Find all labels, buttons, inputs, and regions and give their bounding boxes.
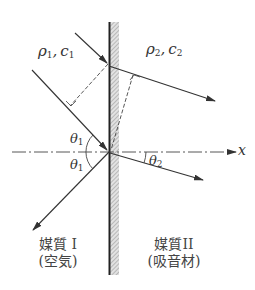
theta2-refracted-label: θ2 xyxy=(149,153,163,169)
c-symbol: c xyxy=(168,40,176,58)
medium2-name: 媒質II (吸音材) xyxy=(136,236,212,270)
c-subscript: 2 xyxy=(177,48,183,58)
theta-symbol: θ xyxy=(149,153,157,168)
rho-symbol: ρ xyxy=(38,42,47,60)
medium2-params-label: ρ2, c2 xyxy=(146,40,182,58)
theta-subscript: 2 xyxy=(157,159,163,169)
c-subscript: 1 xyxy=(69,50,75,60)
theta-symbol: θ xyxy=(70,157,78,172)
medium1-params-label: ρ1, c1 xyxy=(38,42,74,60)
acoustic-diagram: ρ1, c1 ρ2, c2 θ1 θ1 θ2 x 媒質 I (空気) 媒質II … xyxy=(0,0,255,290)
medium1-name-line1: 媒質 I xyxy=(30,236,86,253)
c-symbol: c xyxy=(60,42,68,60)
rho-symbol: ρ xyxy=(146,40,155,58)
rho-subscript: 2 xyxy=(155,48,161,58)
medium2-name-line2: (吸音材) xyxy=(136,253,212,270)
incident-ray-upper xyxy=(75,33,107,63)
medium2-name-line1: 媒質II xyxy=(136,236,212,253)
rho-subscript: 1 xyxy=(47,50,53,60)
theta-symbol: θ xyxy=(70,131,78,146)
theta1-incident-label: θ1 xyxy=(70,131,84,147)
theta1-reflected-label: θ1 xyxy=(70,157,84,173)
angle-arc-theta2 xyxy=(144,152,146,163)
medium1-name-line2: (空気) xyxy=(30,253,86,270)
x-axis-label: x xyxy=(238,142,246,158)
refracted-ray-upper xyxy=(109,66,215,101)
incident-wavefront xyxy=(70,64,108,106)
medium1-name: 媒質 I (空気) xyxy=(30,236,86,270)
theta-subscript: 1 xyxy=(78,137,84,147)
theta-subscript: 1 xyxy=(78,163,84,173)
